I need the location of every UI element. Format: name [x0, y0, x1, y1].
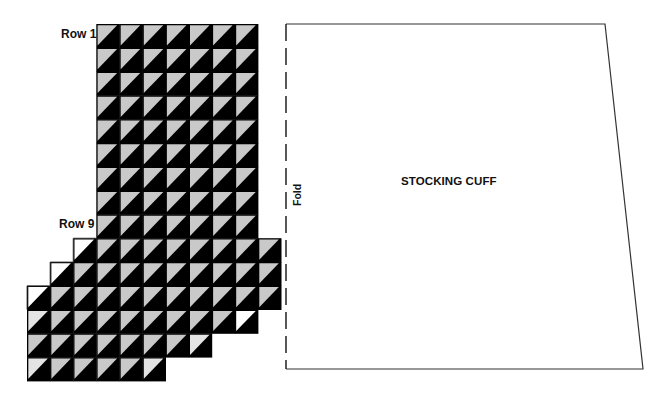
grid-cell — [212, 238, 236, 262]
grid-cell — [143, 72, 167, 96]
grid-cell — [212, 167, 236, 191]
grid-cell — [27, 310, 51, 334]
grid-cell — [258, 286, 282, 310]
grid-cell — [212, 119, 236, 143]
grid-cell — [235, 95, 259, 119]
grid-cell — [212, 191, 236, 215]
grid-cell — [119, 48, 142, 72]
grid-cell — [96, 238, 120, 262]
row-9-label: Row 9 — [59, 217, 94, 231]
grid-cell — [96, 262, 120, 286]
grid-cell — [189, 238, 213, 262]
grid-cell — [235, 286, 259, 310]
grid-cell — [189, 262, 213, 286]
grid-cell — [143, 310, 167, 334]
grid-cell — [119, 72, 142, 96]
grid-cell — [50, 357, 74, 381]
row-1-label: Row 1 — [61, 27, 96, 41]
grid-cell — [235, 262, 259, 286]
grid-cell — [235, 24, 259, 48]
grid-cell — [96, 333, 120, 357]
grid-cell — [166, 191, 190, 215]
grid-cell — [166, 167, 190, 191]
grid-cell — [119, 119, 142, 143]
grid-cell — [119, 333, 142, 357]
fold-label: Fold — [291, 184, 303, 206]
grid-cell — [166, 262, 190, 286]
grid-cell — [73, 286, 97, 310]
grid-cell — [258, 238, 282, 262]
grid-cell — [189, 286, 213, 310]
cuff-title: STOCKING CUFF — [401, 175, 497, 187]
grid-cell — [189, 214, 213, 238]
grid-cell — [96, 214, 120, 238]
grid-cell — [119, 310, 142, 334]
grid-cell — [143, 24, 167, 48]
grid-cell — [166, 48, 190, 72]
grid-cell — [143, 119, 167, 143]
grid-cell — [166, 95, 190, 119]
grid-cell — [119, 24, 142, 48]
grid-cell — [235, 214, 259, 238]
grid-cell — [119, 286, 142, 310]
grid-cell — [189, 72, 213, 96]
grid-cell — [73, 262, 97, 286]
grid-cell — [143, 214, 167, 238]
grid-cell — [235, 310, 259, 334]
grid-cell — [27, 357, 51, 381]
grid-cell — [189, 143, 213, 167]
grid-cell — [96, 48, 120, 72]
grid-cell — [189, 119, 213, 143]
grid-cell — [212, 72, 236, 96]
grid-cell — [189, 167, 213, 191]
knitting-chart-diagram — [0, 0, 671, 394]
grid-cell — [96, 286, 120, 310]
grid-cell — [166, 238, 190, 262]
grid-cell — [96, 72, 120, 96]
grid-cell — [119, 238, 142, 262]
grid-cell — [96, 191, 120, 215]
cuff-outline — [286, 24, 643, 369]
grid-cell — [96, 119, 120, 143]
grid-cell — [73, 238, 97, 262]
grid-cell — [212, 143, 236, 167]
grid-cell — [189, 191, 213, 215]
grid-cell — [166, 119, 190, 143]
grid-cell — [50, 286, 74, 310]
grid-cell — [258, 262, 282, 286]
grid-cell — [119, 143, 142, 167]
grid-cell — [143, 333, 167, 357]
grid-cell — [189, 24, 213, 48]
grid-cell — [143, 357, 167, 381]
grid-cell — [235, 238, 259, 262]
grid-cell — [50, 262, 74, 286]
grid-cell — [235, 48, 259, 72]
grid-cell — [166, 310, 190, 334]
grid-cell — [166, 333, 190, 357]
grid-cell — [235, 143, 259, 167]
grid-cell — [212, 214, 236, 238]
grid-cell — [212, 48, 236, 72]
grid-cell — [119, 357, 142, 381]
stocking-cuff-pattern — [286, 24, 643, 369]
grid-cell — [27, 333, 51, 357]
colorwork-grid — [27, 24, 282, 381]
grid-cell — [119, 214, 142, 238]
grid-cell — [235, 167, 259, 191]
grid-cell — [96, 167, 120, 191]
grid-cell — [189, 333, 213, 357]
grid-cell — [212, 262, 236, 286]
grid-cell — [96, 24, 120, 48]
grid-cell — [235, 191, 259, 215]
grid-cell — [143, 262, 167, 286]
grid-cell — [119, 262, 142, 286]
grid-cell — [212, 286, 236, 310]
grid-cell — [50, 333, 74, 357]
grid-cell — [166, 286, 190, 310]
grid-cell — [27, 286, 51, 310]
grid-cell — [73, 310, 97, 334]
grid-cell — [189, 310, 213, 334]
grid-cell — [143, 95, 167, 119]
grid-cell — [212, 24, 236, 48]
grid-cell — [166, 72, 190, 96]
